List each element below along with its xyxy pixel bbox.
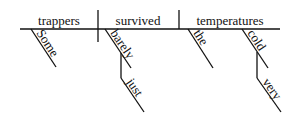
object-word: temperatures — [196, 13, 263, 28]
verb-word: survived — [116, 13, 161, 28]
modifier-word-very: very — [260, 75, 286, 103]
modifier-word-some: Some — [33, 26, 62, 59]
modifier-word-barely: barely — [108, 26, 139, 62]
modifier-word-cold: cold — [245, 26, 270, 53]
sentence-diagram: trappers survived temperatures Some bare… — [0, 0, 295, 117]
modifier-word-the: the — [190, 27, 211, 49]
subject-word: trappers — [38, 13, 80, 28]
modifier-word-just: just — [123, 74, 147, 99]
